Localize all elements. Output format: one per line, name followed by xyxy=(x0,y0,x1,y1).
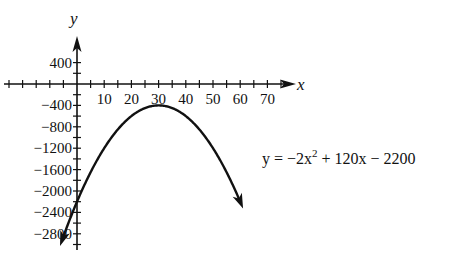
y-tick-label: −1200 xyxy=(34,140,72,156)
y-tick-label: 400 xyxy=(50,55,73,71)
parabola-curve xyxy=(62,105,240,240)
x-tick-label: 60 xyxy=(233,91,248,107)
x-axis-label: x xyxy=(296,75,305,94)
y-axis-label: y xyxy=(68,9,78,28)
y-tick-label: −800 xyxy=(41,119,72,135)
equation-rhs: + 120x − 2200 xyxy=(318,150,416,167)
chart: 10203040506070400−400−800−1200−1600−2000… xyxy=(0,0,451,265)
y-tick-label: −1600 xyxy=(34,162,72,178)
x-tick-label: 10 xyxy=(97,91,112,107)
curve-arrows xyxy=(60,193,243,246)
equation-lhs: y = −2x xyxy=(262,150,312,168)
y-tick-label: −400 xyxy=(41,97,72,113)
equation-label: y = −2x2 + 120x − 2200 xyxy=(262,147,416,168)
x-tick-label: 20 xyxy=(124,91,139,107)
tick-labels: 10203040506070400−400−800−1200−1600−2000… xyxy=(34,55,275,242)
x-tick-label: 40 xyxy=(178,91,193,107)
x-tick-label: 70 xyxy=(260,91,275,107)
y-tick-label: −2000 xyxy=(34,183,72,199)
x-tick-label: 50 xyxy=(206,91,221,107)
y-tick-label: −2400 xyxy=(34,204,72,220)
